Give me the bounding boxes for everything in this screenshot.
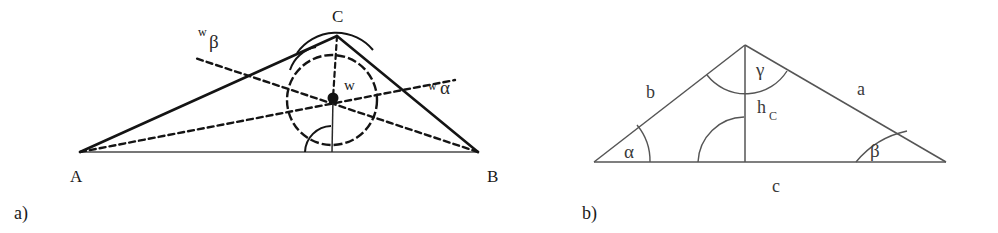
- bisector-beta-label-prefix: w: [198, 25, 207, 39]
- angle-label-alpha: α: [624, 141, 634, 162]
- height-label-subscript: C: [769, 109, 777, 123]
- angle-arc-gamma: [707, 71, 787, 94]
- bisector-beta-label-greek: β: [209, 31, 219, 52]
- bisector-from-a: [80, 80, 455, 152]
- bisector-from-b: [195, 58, 478, 152]
- bisector-alpha-label-greek: α: [440, 77, 450, 98]
- right-angle-arc-at-base: [305, 126, 331, 152]
- bisector-alpha-label-prefix: w: [428, 79, 437, 93]
- side-cb: [337, 36, 478, 152]
- side-label-c: c: [772, 176, 780, 196]
- vertex-label-c: C: [332, 7, 343, 26]
- height-label-base: h: [757, 97, 766, 117]
- triangle-incircle-svg: w w β w α A B C a): [0, 0, 520, 233]
- incenter-point: [328, 93, 339, 104]
- figure-container: w w β w α A B C a): [0, 0, 998, 233]
- side-label-a: a: [857, 79, 865, 99]
- caption-b: b): [582, 203, 597, 224]
- angle-label-beta: β: [870, 140, 880, 161]
- panel-a-diagram: w w β w α A B C a): [0, 0, 520, 233]
- inradius-to-base: [332, 98, 333, 152]
- right-angle-arc-at-foot: [698, 117, 744, 162]
- side-ac: [80, 36, 337, 152]
- angle-label-gamma: γ: [755, 59, 764, 80]
- side-a: [745, 45, 946, 162]
- angle-arc-alpha: [637, 125, 650, 162]
- caption-a: a): [14, 203, 28, 224]
- triangle-height-svg: b a c h C α β γ b): [520, 0, 998, 233]
- side-label-b: b: [646, 82, 655, 102]
- bisector-from-c: [333, 36, 337, 98]
- incenter-label: w: [344, 77, 355, 93]
- vertex-label-a: A: [70, 167, 83, 186]
- side-b: [594, 45, 745, 162]
- vertex-label-b: B: [487, 167, 498, 186]
- panel-b-diagram: b a c h C α β γ b): [520, 0, 998, 233]
